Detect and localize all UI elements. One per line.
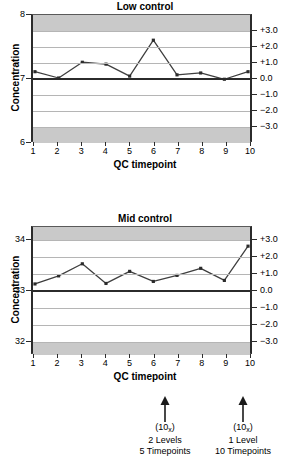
data-point-marker xyxy=(175,73,178,76)
y-tick-label-right: 0.0 xyxy=(260,73,273,83)
data-point-marker xyxy=(128,270,131,273)
y-tick-mark-right xyxy=(252,290,257,291)
x-tick-label: 6 xyxy=(151,146,156,156)
y-tick-label-right: +1.0 xyxy=(260,57,278,67)
x-tick-label: 8 xyxy=(199,146,204,156)
y-tick-mark-right xyxy=(252,239,257,240)
gridline-sd--2 xyxy=(33,111,250,112)
data-point-marker xyxy=(246,70,249,73)
gridline-sd--1 xyxy=(33,308,250,309)
annotation-right-symbol-close: ) xyxy=(250,422,253,432)
x-axis-mid: 12345678910 xyxy=(31,354,252,370)
y-tick-mark-right xyxy=(252,30,257,31)
annotation-right-line3: 10 Timepoints xyxy=(183,446,290,457)
y-tick-label-left: 7 xyxy=(20,73,25,83)
x-tick-label: 8 xyxy=(199,358,204,368)
y-tick-label-right: −3.0 xyxy=(260,121,278,131)
chart-low-control: Low control Concentration 876 +3.0+2.0+1… xyxy=(0,0,290,180)
y-tick-label-right: +2.0 xyxy=(260,41,278,51)
y-tick-mark-right xyxy=(252,273,257,274)
annotation-right-line2: 1 Level xyxy=(183,435,290,446)
annotations-group: (10x) 2 Levels 5 Timepoints (10x) 1 Leve… xyxy=(0,396,290,472)
y-tick-label-right: −2.0 xyxy=(260,105,278,115)
shaded-band-upper xyxy=(33,227,250,240)
shaded-band-upper xyxy=(33,15,250,31)
y-axis-right-mid: +3.0+2.0+1.00.0−1.0−2.0−3.0 xyxy=(252,212,290,392)
x-tick-label: 3 xyxy=(79,358,84,368)
x-tick-label: 6 xyxy=(151,358,156,368)
y-tick-label-right: −3.0 xyxy=(260,336,278,346)
annotation-right-symbol: (10 xyxy=(233,422,246,432)
data-point-marker xyxy=(223,279,226,282)
data-point-marker xyxy=(246,245,249,248)
y-tick-label-left: 32 xyxy=(15,336,25,346)
y-tick-label-right: +2.0 xyxy=(260,251,278,261)
data-point-marker xyxy=(81,262,84,265)
y-tick-mark-right xyxy=(252,110,257,111)
mean-line xyxy=(33,290,250,292)
gridline-sd--2 xyxy=(33,325,250,326)
y-axis-right-low: +3.0+2.0+1.00.0−1.0−2.0−3.0 xyxy=(252,0,290,180)
x-tick-label: 9 xyxy=(223,146,228,156)
chart-title-mid: Mid control xyxy=(0,212,290,225)
up-arrow-icon xyxy=(237,396,250,422)
x-tick-label: 4 xyxy=(103,146,108,156)
gridline-sd-2 xyxy=(33,47,250,48)
x-tick-label: 2 xyxy=(55,146,60,156)
y-tick-label-left: 8 xyxy=(20,9,25,19)
y-axis-left-mid: 343332 xyxy=(0,212,31,392)
data-point-marker xyxy=(104,282,107,285)
y-tick-mark-right xyxy=(252,46,257,47)
up-arrow-icon xyxy=(159,396,172,422)
data-point-marker xyxy=(152,280,155,283)
gridline-sd--3 xyxy=(33,127,250,128)
y-tick-mark-right xyxy=(252,307,257,308)
mean-line xyxy=(33,78,250,80)
x-axis-title-low: QC timepoint xyxy=(0,159,290,170)
x-axis-low: 12345678910 xyxy=(31,142,252,158)
gridline-sd--3 xyxy=(33,342,250,343)
x-tick-label: 9 xyxy=(223,358,228,368)
y-tick-mark-right xyxy=(252,256,257,257)
x-tick-label: 5 xyxy=(127,358,132,368)
x-tick-label: 3 xyxy=(79,146,84,156)
shaded-band-lower xyxy=(33,127,250,143)
x-tick-label: 4 xyxy=(103,358,108,368)
y-tick-label-right: +1.0 xyxy=(260,268,278,278)
y-axis-left-low: 876 xyxy=(0,0,31,180)
gridline-sd-1 xyxy=(33,63,250,64)
data-point-marker xyxy=(199,71,202,74)
data-point-marker xyxy=(33,70,36,73)
y-tick-mark-right xyxy=(252,126,257,127)
gridline-sd-3 xyxy=(33,240,250,241)
plot-area-mid xyxy=(31,226,252,354)
x-tick-label: 1 xyxy=(30,146,35,156)
x-tick-label: 7 xyxy=(175,358,180,368)
gridline-sd--1 xyxy=(33,95,250,96)
x-tick-label: 10 xyxy=(245,358,255,368)
x-tick-label: 1 xyxy=(30,358,35,368)
y-tick-label-left: 33 xyxy=(15,285,25,295)
x-axis-title-mid: QC timepoint xyxy=(0,371,290,382)
data-point-marker xyxy=(199,267,202,270)
y-tick-mark-right xyxy=(252,78,257,79)
y-tick-label-right: −1.0 xyxy=(260,89,278,99)
y-tick-label-right: −1.0 xyxy=(260,302,278,312)
y-tick-label-right: +3.0 xyxy=(260,25,278,35)
data-line xyxy=(35,246,248,284)
chart-title-low: Low control xyxy=(0,0,290,13)
x-tick-label: 10 xyxy=(245,146,255,156)
annotation-left-symbol-close: ) xyxy=(172,422,175,432)
y-tick-mark-right xyxy=(252,94,257,95)
y-tick-label-right: 0.0 xyxy=(260,285,273,295)
shaded-band-lower xyxy=(33,342,250,355)
x-tick-label: 7 xyxy=(175,146,180,156)
x-tick-label: 2 xyxy=(55,358,60,368)
x-tick-label: 5 xyxy=(127,146,132,156)
y-tick-label-right: −2.0 xyxy=(260,319,278,329)
plot-area-low xyxy=(31,14,252,142)
y-tick-mark-right xyxy=(252,324,257,325)
data-point-marker xyxy=(33,282,36,285)
gridline-sd-1 xyxy=(33,274,250,275)
chart-mid-control: Mid control Concentration 343332 +3.0+2.… xyxy=(0,212,290,392)
